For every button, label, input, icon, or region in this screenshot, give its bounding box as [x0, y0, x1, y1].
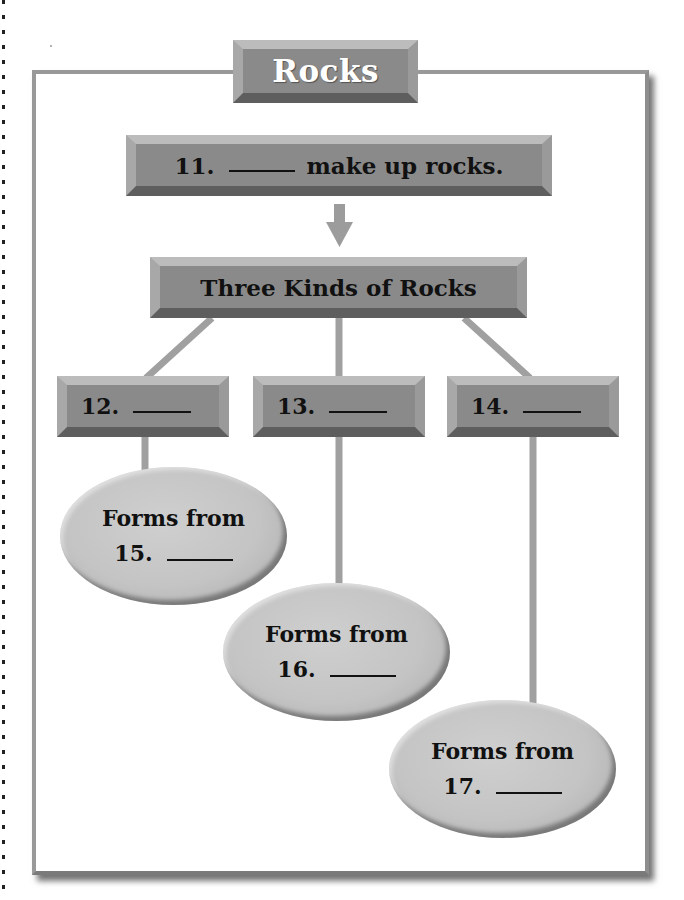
- question-number: 14.: [471, 393, 509, 419]
- origin-answer-line: 16.: [277, 652, 395, 687]
- category-text: Three Kinds of Rocks: [200, 274, 476, 301]
- question-text: make up rocks.: [307, 152, 504, 179]
- origin-label: Forms from: [265, 617, 408, 652]
- origin-oval-15: Forms from 15.: [60, 467, 287, 605]
- title-banner: Rocks: [233, 40, 418, 103]
- origin-oval-16: Forms from 16.: [223, 583, 450, 721]
- question-number: 15.: [114, 536, 152, 571]
- question-number: 17.: [443, 769, 481, 804]
- page-edge-dashed-line: [2, 0, 5, 900]
- answer-blank[interactable]: [329, 411, 387, 413]
- origin-label: Forms from: [431, 734, 574, 769]
- question-number: 12.: [81, 393, 119, 419]
- origin-answer-line: 17.: [443, 769, 561, 804]
- answer-blank[interactable]: [229, 170, 295, 172]
- answer-blank[interactable]: [523, 411, 581, 413]
- question-number: 11.: [175, 152, 215, 179]
- origin-oval-17: Forms from 17.: [389, 700, 616, 838]
- question-number: 13.: [277, 393, 315, 419]
- diagram-title: Rocks: [272, 53, 379, 89]
- answer-blank[interactable]: [330, 675, 396, 677]
- answer-blank[interactable]: [496, 792, 562, 794]
- origin-answer-line: 15.: [114, 536, 232, 571]
- question-number: 16.: [277, 652, 315, 687]
- category-box: Three Kinds of Rocks: [150, 257, 527, 318]
- stray-dot: [50, 45, 52, 47]
- kind-box-14: 14.: [447, 376, 619, 437]
- kind-box-13: 13.: [253, 376, 425, 437]
- answer-blank[interactable]: [133, 411, 191, 413]
- question-11-box: 11. make up rocks.: [126, 135, 552, 196]
- kind-box-12: 12.: [57, 376, 229, 437]
- answer-blank[interactable]: [167, 559, 233, 561]
- origin-label: Forms from: [102, 501, 245, 536]
